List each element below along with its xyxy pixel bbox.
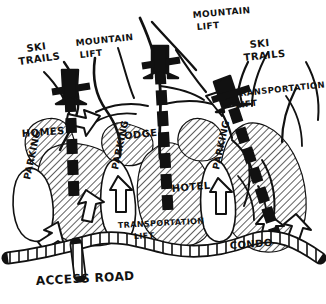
ski-resort-plan-diagram: SKI TRAILS MOUNTAIN LIFT MOUNTAIN LIFT S… — [0, 0, 326, 304]
diagram-canvas: SKI TRAILS MOUNTAIN LIFT MOUNTAIN LIFT S… — [0, 0, 326, 304]
label-transportation-lift-lower-line2: LIFT — [134, 231, 155, 241]
label-ski-trails-right-line1: SKI — [249, 37, 270, 50]
label-mountain-lift-center-line2: LIFT — [196, 20, 220, 32]
